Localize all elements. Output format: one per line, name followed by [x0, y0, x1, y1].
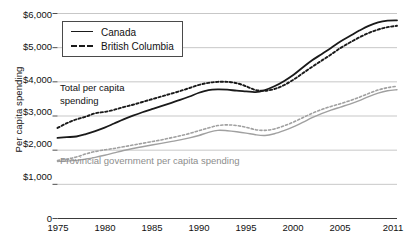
legend-item-canada[interactable]: Canada: [69, 25, 174, 39]
legend: Canada British Columbia: [62, 21, 183, 57]
legend-line-dotted-icon: [69, 41, 95, 51]
annotation-total-per-capita: Total per capita spending: [60, 82, 124, 107]
chart-container: Per capita spending $6,000 $5,000 $4,000…: [0, 0, 406, 241]
legend-label-british-columbia: British Columbia: [101, 41, 174, 52]
legend-line-solid-icon: [69, 27, 95, 37]
annotation-provincial-per-capita: Provincial government per capita spendin…: [60, 155, 240, 168]
legend-item-british-columbia[interactable]: British Columbia: [69, 39, 174, 53]
legend-label-canada: Canada: [101, 27, 136, 38]
plot-area: [0, 0, 406, 241]
